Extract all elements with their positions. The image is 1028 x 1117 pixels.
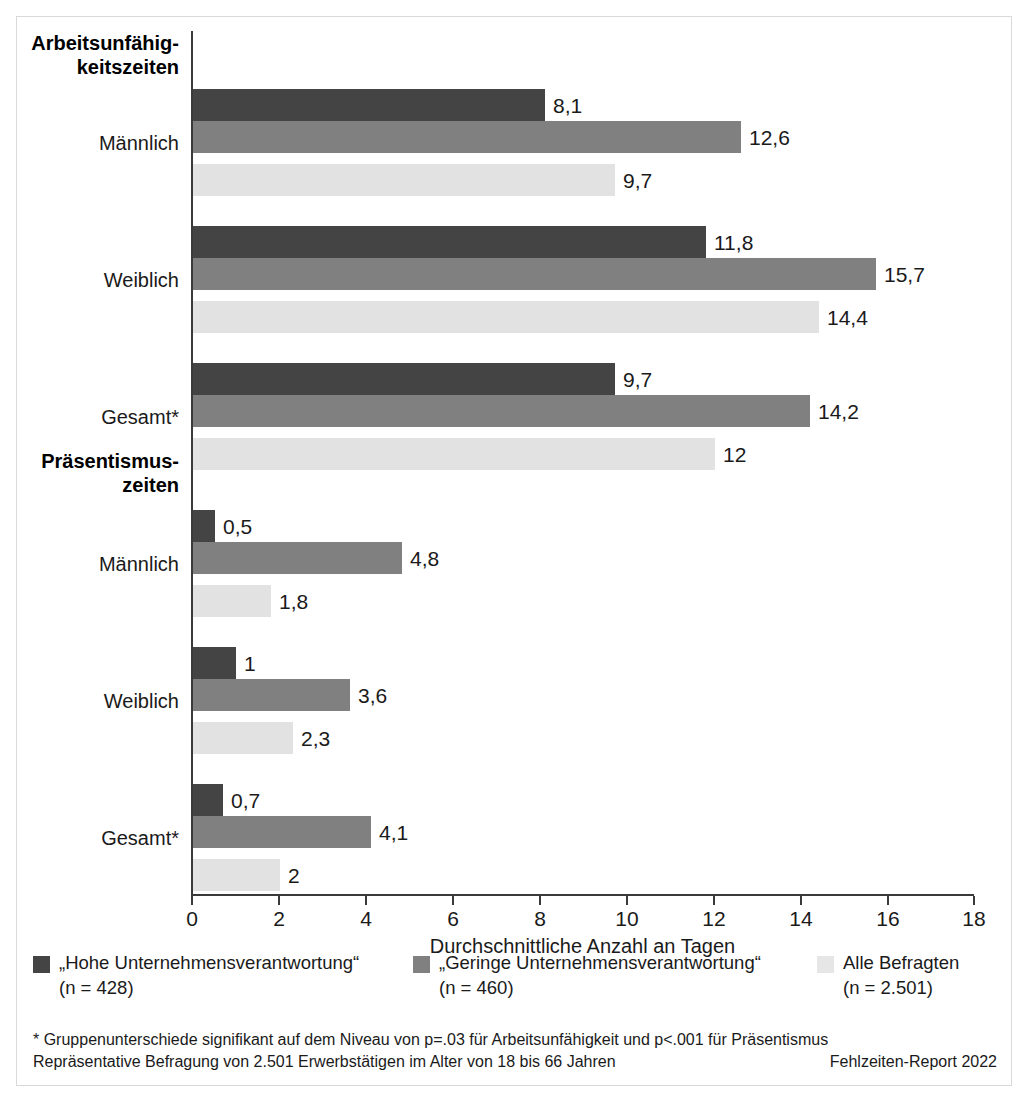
- bar-value-pr-gesamt-hoch: 0,7: [231, 789, 260, 813]
- bar-pr-gesamt-alle: [193, 859, 280, 891]
- category-label-au-gesamt: Gesamt*: [17, 406, 179, 429]
- bar-au-maennlich-alle: [193, 164, 615, 196]
- bar-value-au-weiblich-gering: 15,7: [884, 263, 925, 287]
- bar-au-weiblich-gering: [193, 258, 876, 290]
- legend-swatch-icon-alle: [817, 956, 834, 973]
- bar-value-au-maennlich-hoch: 8,1: [553, 94, 582, 118]
- x-axis-line: [191, 894, 974, 896]
- bar-pr-maennlich-gering: [193, 542, 402, 574]
- category-label-pr-gesamt: Gesamt*: [17, 827, 179, 850]
- bar-value-au-weiblich-alle: 14,4: [827, 306, 868, 330]
- bar-value-au-gesamt-gering: 14,2: [818, 400, 859, 424]
- bar-pr-weiblich-hoch: [193, 647, 236, 679]
- x-tick-4: [365, 896, 367, 905]
- group-header-line2: keitszeiten: [17, 55, 179, 79]
- chart-legend: „Hohe Unternehmensverantwortung“ (n = 42…: [17, 942, 1013, 1022]
- bar-au-maennlich-hoch: [193, 89, 545, 121]
- bar-value-pr-weiblich-gering: 3,6: [358, 684, 387, 708]
- bar-pr-weiblich-alle: [193, 722, 293, 754]
- group-header-line2: zeiten: [17, 473, 179, 497]
- x-tick-8: [539, 896, 541, 905]
- category-label-pr-weiblich: Weiblich: [17, 690, 179, 713]
- legend-label-alle: Alle Befragten: [843, 950, 959, 975]
- bar-pr-weiblich-gering: [193, 679, 350, 711]
- source-label: Fehlzeiten-Report 2022: [830, 1051, 997, 1072]
- x-tick-2: [278, 896, 280, 905]
- x-tick-label-18: 18: [944, 907, 1004, 931]
- legend-n-alle: (n = 2.501): [843, 975, 933, 1000]
- x-tick-18: [973, 896, 975, 905]
- legend-n-geringe: (n = 460): [439, 975, 514, 1000]
- x-tick-label-16: 16: [858, 907, 918, 931]
- bar-value-au-gesamt-hoch: 9,7: [623, 368, 652, 392]
- bar-value-pr-maennlich-alle: 1,8: [279, 590, 308, 614]
- figure-container: Arbeitsunfähig- keitszeiten Präsentismus…: [16, 16, 1012, 1086]
- legend-n-hohe: (n = 428): [59, 975, 134, 1000]
- x-tick-label-8: 8: [510, 907, 570, 931]
- category-label-pr-maennlich: Männlich: [17, 553, 179, 576]
- bar-value-au-weiblich-hoch: 11,8: [714, 231, 753, 255]
- category-label-au-weiblich: Weiblich: [17, 269, 179, 292]
- bar-au-gesamt-alle: [193, 438, 715, 470]
- bar-value-pr-maennlich-gering: 4,8: [410, 547, 439, 571]
- bar-au-gesamt-hoch: [193, 363, 615, 395]
- group-header-line1: Präsentismus-: [17, 449, 179, 473]
- bar-pr-gesamt-hoch: [193, 784, 223, 816]
- footnote-line-1: * Gruppenunterschiede signifikant auf de…: [33, 1029, 828, 1050]
- group-header-arbeitsunfaehigkeitszeiten: Arbeitsunfähig- keitszeiten: [17, 31, 179, 79]
- x-tick-label-14: 14: [771, 907, 831, 931]
- legend-swatch-icon-geringe: [413, 956, 430, 973]
- bar-au-weiblich-alle: [193, 301, 819, 333]
- bar-au-gesamt-gering: [193, 395, 810, 427]
- x-tick-label-12: 12: [684, 907, 744, 931]
- x-tick-14: [800, 896, 802, 905]
- group-header-line1: Arbeitsunfähig-: [17, 31, 179, 55]
- bar-value-pr-weiblich-hoch: 1: [244, 652, 256, 676]
- x-tick-label-0: 0: [162, 907, 222, 931]
- bar-value-pr-gesamt-gering: 4,1: [379, 821, 408, 845]
- x-tick-label-10: 10: [597, 907, 657, 931]
- bar-value-au-gesamt-alle: 12: [723, 443, 746, 467]
- bar-pr-maennlich-alle: [193, 585, 271, 617]
- footnote-area: * Gruppenunterschiede signifikant auf de…: [17, 1029, 1013, 1087]
- x-tick-label-6: 6: [423, 907, 483, 931]
- bar-au-weiblich-hoch: [193, 226, 706, 258]
- x-tick-0: [191, 896, 193, 905]
- x-tick-10: [626, 896, 628, 905]
- plot-area: Arbeitsunfähig- keitszeiten Präsentismus…: [17, 17, 1013, 922]
- bar-value-au-maennlich-gering: 12,6: [749, 126, 790, 150]
- x-tick-label-2: 2: [249, 907, 309, 931]
- bar-value-pr-maennlich-hoch: 0,5: [223, 515, 252, 539]
- footnote-line-2: Repräsentative Befragung von 2.501 Erwer…: [33, 1051, 616, 1072]
- bar-value-pr-gesamt-alle: 2: [288, 864, 300, 888]
- bar-au-maennlich-gering: [193, 121, 741, 153]
- bar-pr-gesamt-gering: [193, 816, 371, 848]
- x-tick-12: [713, 896, 715, 905]
- x-tick-16: [887, 896, 889, 905]
- category-label-au-maennlich: Männlich: [17, 132, 179, 155]
- legend-label-geringe: „Geringe Unternehmensverantwortung“: [439, 950, 761, 975]
- x-tick-label-4: 4: [336, 907, 396, 931]
- x-tick-6: [452, 896, 454, 905]
- legend-label-hohe: „Hohe Unternehmensverantwortung“: [59, 950, 359, 975]
- bar-pr-maennlich-hoch: [193, 510, 215, 542]
- bar-value-pr-weiblich-alle: 2,3: [301, 727, 330, 751]
- legend-swatch-icon-hohe: [33, 956, 50, 973]
- bar-value-au-maennlich-alle: 9,7: [623, 169, 652, 193]
- group-header-praesentismuszeiten: Präsentismus- zeiten: [17, 449, 179, 497]
